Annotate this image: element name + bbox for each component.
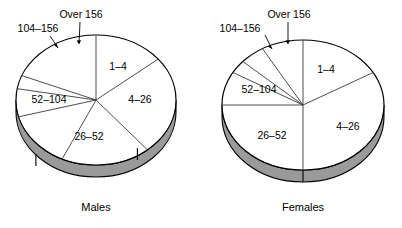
males-label-over-156: Over 156 <box>59 8 102 20</box>
males-label-1-4: 1–4 <box>109 60 127 72</box>
females-label-4-26: 4–26 <box>336 120 360 132</box>
females-label-104-156: 104–156 <box>220 22 261 34</box>
females-label-over-156: Over 156 <box>267 8 310 20</box>
females-pie-chart: 1–4 4–26 26–52 52–104 104–156 Over 156 F… <box>220 8 384 213</box>
females-label-52-104: 52–104 <box>241 83 276 95</box>
males-label-52-104: 52–104 <box>31 93 66 105</box>
females-callout-104-156: 104–156 <box>220 22 272 49</box>
females-label-26-52: 26–52 <box>257 129 286 141</box>
males-label-104-156: 104–156 <box>18 22 59 34</box>
females-label-1-4: 1–4 <box>317 63 335 75</box>
females-caption: Females <box>282 201 325 213</box>
pie-chart-figure: 1–4 4–26 26–52 52–104 104–156 Over 156 M… <box>0 0 402 228</box>
males-pie-chart: 1–4 4–26 26–52 52–104 104–156 Over 156 M… <box>16 8 176 213</box>
males-caption: Males <box>81 201 111 213</box>
males-label-4-26: 4–26 <box>128 93 152 105</box>
males-callout-104-156: 104–156 <box>18 22 59 48</box>
males-label-26-52: 26–52 <box>74 130 103 142</box>
females-callout-over-156: Over 156 <box>267 8 310 44</box>
charts-canvas: 1–4 4–26 26–52 52–104 104–156 Over 156 M… <box>0 0 402 228</box>
